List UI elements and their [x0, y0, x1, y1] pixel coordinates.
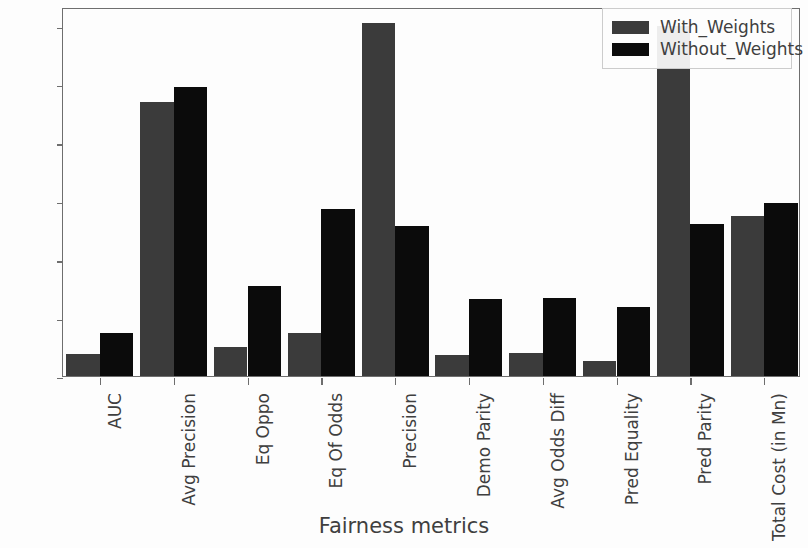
- x-tick-mark: [764, 378, 765, 385]
- bar-without-weights: [248, 286, 282, 376]
- chart-legend: With_Weights Without_Weights: [602, 8, 792, 69]
- x-tick-mark: [469, 378, 470, 385]
- bar-with-weights: [288, 333, 322, 376]
- x-tick-mark: [100, 378, 101, 385]
- x-tick-label: Eq Oppo: [255, 393, 272, 465]
- bar-with-weights: [657, 26, 691, 376]
- y-tick-mark: [57, 261, 63, 262]
- x-tick-label: Pred Equality: [624, 393, 641, 505]
- x-tick-mark: [174, 378, 175, 385]
- bar-without-weights: [764, 203, 798, 376]
- bar-without-weights: [100, 333, 134, 376]
- x-tick-mark: [395, 378, 396, 385]
- x-tick-mark: [617, 378, 618, 385]
- x-tick-mark: [690, 378, 691, 385]
- bar-without-weights: [321, 209, 355, 376]
- y-tick-mark: [57, 378, 63, 379]
- x-tick-label: Eq Of Odds: [328, 393, 345, 489]
- y-tick-mark: [57, 28, 63, 29]
- x-tick-label: Pred Parity: [697, 393, 714, 485]
- x-tick-label: AUC: [107, 393, 124, 429]
- y-tick-mark: [57, 86, 63, 87]
- bar-with-weights: [509, 353, 543, 376]
- legend-item-with-weights: With_Weights: [612, 16, 782, 38]
- bar-without-weights: [543, 298, 577, 376]
- x-tick-label: Avg Odds Diff: [550, 393, 567, 509]
- bar-without-weights: [690, 224, 724, 376]
- bar-with-weights: [362, 23, 396, 376]
- bar-with-weights: [66, 354, 100, 376]
- x-tick-mark: [321, 378, 322, 385]
- bar-without-weights: [617, 307, 651, 376]
- x-tick-mark: [543, 378, 544, 385]
- bar-with-weights: [583, 361, 617, 376]
- legend-swatch-without-weights: [612, 43, 649, 56]
- bar-with-weights: [435, 355, 469, 376]
- legend-label-with-weights: With_Weights: [660, 17, 775, 37]
- legend-swatch-with-weights: [612, 21, 649, 34]
- y-tick-mark: [57, 144, 63, 145]
- y-tick-mark: [57, 320, 63, 321]
- bar-without-weights: [395, 226, 429, 376]
- legend-label-without-weights: Without_Weights: [660, 39, 803, 59]
- x-tick-label: Avg Precision: [181, 393, 198, 506]
- bar-with-weights: [214, 347, 248, 376]
- x-tick-mark: [248, 378, 249, 385]
- bar-chart-figure: 0.000.050.100.150.200.250.30 AUCAvg Prec…: [0, 0, 808, 548]
- legend-item-without-weights: Without_Weights: [612, 38, 782, 60]
- x-axis-title: Fairness metrics: [0, 514, 808, 538]
- bar-without-weights: [469, 299, 503, 376]
- x-tick-label: Demo Parity: [476, 393, 493, 497]
- y-tick-mark: [57, 203, 63, 204]
- x-tick-label: Precision: [402, 393, 419, 469]
- bar-without-weights: [174, 87, 208, 376]
- bar-with-weights: [140, 102, 174, 377]
- bar-with-weights: [731, 216, 765, 376]
